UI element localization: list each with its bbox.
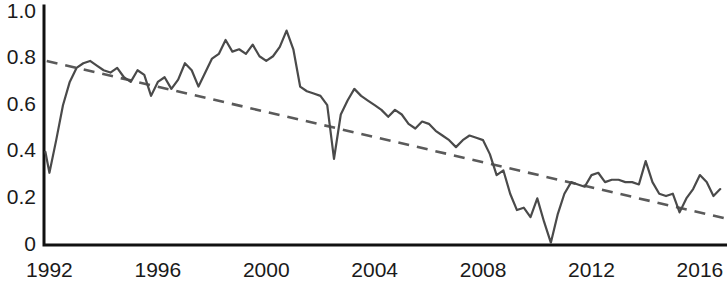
axis-lines [44, 6, 727, 245]
x-tick-label: 1992 [26, 258, 73, 281]
x-tick-label: 2004 [351, 258, 398, 281]
chart-canvas: 1.00.80.60.40.20 19921996200020042008201… [0, 0, 727, 301]
x-tick-label: 2000 [243, 258, 290, 281]
y-tick-label: 1.0 [7, 0, 36, 22]
y-tick-label: 0.2 [7, 185, 36, 208]
y-tick-label: 0.8 [7, 45, 36, 68]
x-tick-labels: 1992199620002004200820122016 [26, 258, 723, 281]
data-series-line [45, 31, 720, 243]
y-tick-label: 0.4 [7, 138, 37, 161]
line-chart: 1.00.80.60.40.20 19921996200020042008201… [0, 0, 727, 301]
y-tick-label: 0.6 [7, 92, 36, 115]
x-tick-label: 2016 [677, 258, 724, 281]
x-tick-label: 1996 [134, 258, 181, 281]
x-tick-label: 2012 [568, 258, 615, 281]
y-tick-labels: 1.00.80.60.40.20 [7, 0, 37, 255]
y-tick-label: 0 [24, 232, 36, 255]
x-tick-label: 2008 [460, 258, 507, 281]
